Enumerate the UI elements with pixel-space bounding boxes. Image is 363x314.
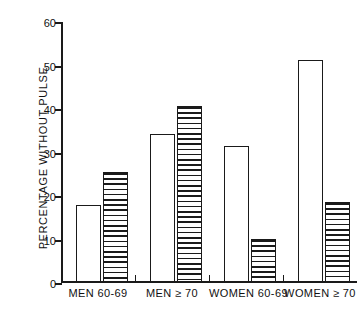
bar-hatched-women-70 [325, 202, 350, 282]
x-group-label-women-70: WOMEN ≥ 70 [283, 287, 357, 299]
y-tick-label: 20 [44, 191, 56, 203]
x-axis-separator [209, 275, 210, 283]
y-tick-label: 10 [44, 235, 56, 247]
bar-open-women-60-69 [224, 146, 249, 282]
y-tick-mark [55, 109, 62, 111]
bar-hatched-women-60-69 [251, 239, 276, 282]
y-tick-mark [55, 22, 62, 24]
y-tick-label: 60 [44, 17, 56, 29]
x-group-label-men-70: MEN ≥ 70 [135, 287, 209, 299]
y-tick-label: 30 [44, 148, 56, 160]
y-tick-mark [55, 66, 62, 68]
bar-open-men-60-69 [76, 205, 101, 282]
x-group-label-women-60-69: WOMEN 60-69 [209, 287, 283, 299]
x-axis-labels: MEN 60-69MEN ≥ 70WOMEN 60-69WOMEN ≥ 70 [61, 287, 357, 309]
bar-open-women-70 [298, 60, 323, 282]
x-group-label-men-60-69: MEN 60-69 [61, 287, 135, 299]
y-tick-label: 40 [44, 104, 56, 116]
bar-open-men-70 [150, 134, 175, 282]
y-tick-label: 0 [50, 278, 56, 290]
x-axis-separator [135, 275, 136, 283]
x-axis-separator [283, 275, 284, 283]
bar-hatched-men-70 [177, 106, 202, 282]
plot-area: 0102030405060 [61, 22, 357, 283]
bar-chart: PERCENTAGE WITHOUT PULSE 0102030405060 M… [0, 0, 363, 314]
y-tick-label: 50 [44, 61, 56, 73]
y-tick-mark [55, 196, 62, 198]
y-tick-mark [55, 153, 62, 155]
bar-hatched-men-60-69 [103, 172, 128, 282]
y-tick-mark [55, 283, 62, 285]
y-tick-mark [55, 240, 62, 242]
